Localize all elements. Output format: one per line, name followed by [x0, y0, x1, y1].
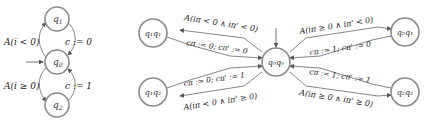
state-label: q₁q₂: [145, 88, 162, 97]
edge-label: cπ := 1; cπ' := 1: [309, 67, 372, 85]
state-label: q₂q₂: [397, 88, 414, 97]
edge-q0-q1: [39, 23, 46, 57]
edge-label: c := 0: [65, 37, 92, 47]
edge-label: A(i < 0): [3, 37, 40, 47]
edge-label: cπ := 1; cπ' := 0: [309, 39, 372, 57]
edge-label: A(i ≥ 0): [3, 81, 40, 91]
edge-label: cπ := 0; cπ' := 0: [186, 38, 249, 56]
edge-label: A(iπ < 0 ∧ iπ' ≥ 0): [182, 91, 258, 112]
edge-label: c := 1: [65, 81, 92, 91]
edge-label: A(iπ < 0 ∧ iπ' < 0): [183, 13, 259, 34]
left-automaton: q1 q0 q2 A(i < 0) c := 0 A(i ≥ 0) c := 1: [3, 7, 92, 117]
edge-q0-q2: [39, 68, 46, 101]
product-automaton: q₀q₀ q₁q₁ q₁q₂ q₂q₁ q₂q₂ A(iπ < 0 ∧ iπ' …: [139, 13, 419, 112]
state-label: q₁q₁: [145, 29, 162, 38]
automata-diagram: q1 q0 q2 A(i < 0) c := 0 A(i ≥ 0) c := 1…: [0, 0, 435, 128]
state-label: q₀q₀: [268, 58, 285, 67]
state-label: q₂q₁: [397, 28, 414, 37]
edge-label: A(iπ ≥ 0 ∧ iπ' ≥ 0): [298, 88, 374, 109]
